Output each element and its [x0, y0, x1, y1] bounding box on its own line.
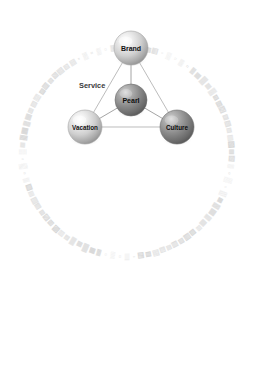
ring-glyph: ▫: [133, 254, 136, 260]
ring-glyph: ▒: [82, 51, 90, 60]
ring-glyph: ▧: [227, 141, 237, 150]
ring-glyph: ▫: [160, 50, 164, 56]
ring-glyph: ▫: [19, 158, 26, 161]
ring-glyph: ▤: [229, 149, 236, 155]
sphere-label-brand: Brand: [121, 45, 141, 52]
pearl-brand-diagram: ▤▧▤▧▤▫▒▫▒▫▓▦▓▦▓▨▥▨▥▨▧▤▧▤▧▒▫▒▫▒▦▓▦▓▦▥▨▥▨▥…: [0, 0, 259, 377]
sphere-label-pearl: Pearl: [122, 97, 139, 104]
ring-glyph: ▧: [227, 155, 236, 163]
ring-glyph: ▫: [226, 171, 233, 175]
ring-glyph: ▒: [124, 253, 129, 261]
ring-glyph: ▫: [118, 252, 122, 261]
ring-glyph: ▒: [110, 251, 116, 260]
ring-glyph: ▦: [19, 142, 25, 148]
ring-glyph: ▫: [76, 56, 81, 62]
sphere-label-vacation: Vacation: [72, 124, 98, 131]
sphere-node-pearl[interactable]: Pearl: [115, 84, 147, 118]
ring-glyph: ▤: [137, 251, 145, 261]
sphere-node-culture[interactable]: Culture: [160, 110, 194, 146]
sphere-node-vacation[interactable]: Vacation: [68, 110, 102, 146]
ring-glyph: ▤: [151, 46, 160, 57]
edge-pearl-vacation: [98, 107, 118, 119]
ring-glyph: ▫: [21, 171, 28, 175]
service-label: Service: [79, 81, 105, 90]
ring-glyph: ▒: [18, 149, 27, 155]
ring-glyph: ▫: [172, 54, 179, 63]
ring-glyph: ▒: [227, 164, 235, 170]
ring-glyph: ▒: [22, 176, 30, 183]
sphere-label-culture: Culture: [166, 124, 189, 131]
sphere-node-brand[interactable]: Brand: [114, 31, 148, 67]
decorative-text-ring: ▤▧▤▧▤▫▒▫▒▫▓▦▓▦▓▨▥▨▥▨▧▤▧▤▧▒▫▒▫▒▦▓▦▓▦▥▨▥▨▥…: [18, 43, 237, 261]
ring-glyph: ▒: [96, 47, 103, 56]
ring-glyph: ▫: [89, 48, 95, 57]
ring-glyph: ▒: [165, 52, 173, 61]
ring-glyph: ▫: [103, 44, 108, 53]
ring-glyph: ▫: [222, 185, 229, 190]
ring-glyph: ▒: [177, 58, 185, 67]
ring-glyph: ▒: [223, 176, 233, 184]
edge-pearl-culture: [144, 107, 164, 119]
ring-glyph: ▫: [103, 250, 108, 259]
annotations: Service: [79, 81, 105, 90]
diagram-canvas: ▤▧▤▧▤▫▒▫▒▫▓▦▓▦▓▨▥▨▥▨▧▤▧▤▧▒▫▒▫▒▦▓▦▓▦▥▨▥▨▥…: [0, 0, 259, 377]
ring-glyph: ▒: [18, 162, 28, 169]
